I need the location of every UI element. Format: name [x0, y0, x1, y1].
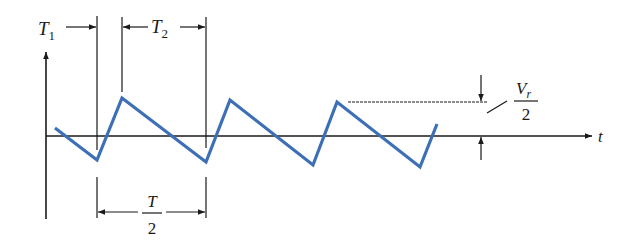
t2-subscript: 2: [162, 26, 169, 41]
ripple-waveform: [55, 98, 437, 167]
svg-text:Vr: Vr: [516, 79, 531, 101]
t1-annotation: T1: [38, 18, 96, 43]
svg-text:T1: T1: [38, 18, 55, 43]
ripple-denominator: 2: [522, 105, 531, 124]
svg-text:T2: T2: [151, 16, 168, 41]
ripple-voltage-subscript: r: [526, 87, 531, 101]
sawtooth-ripple-diagram: t T1 T2 T 2 Vr 2: [0, 0, 631, 249]
half-period-annotation: T 2: [98, 192, 205, 238]
t1-subscript: 1: [49, 28, 56, 43]
t2-annotation: T2: [123, 16, 205, 41]
half-period-numerator: T: [147, 192, 158, 211]
time-axis-label: t: [598, 127, 604, 146]
half-period-denominator: 2: [148, 219, 157, 238]
ripple-annotation: Vr 2: [348, 75, 538, 160]
